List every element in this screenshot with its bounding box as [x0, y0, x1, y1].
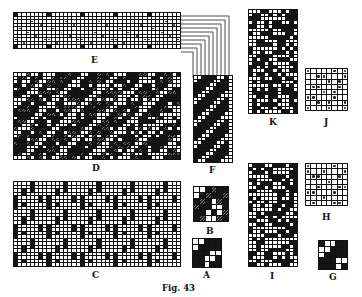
label-k: K [269, 117, 277, 127]
panel-k-grid [248, 9, 298, 114]
label-c: C [92, 270, 99, 280]
panel-d-grid [13, 72, 181, 160]
figure-caption: Fig. 43 [162, 283, 195, 293]
panel-j-grid [305, 68, 348, 111]
panel-f-grid [193, 75, 233, 163]
panel-i-grid [248, 163, 298, 267]
label-d: D [92, 163, 100, 173]
panel-h-grid [305, 163, 348, 206]
panel-a-grid [192, 238, 222, 268]
label-b: B [206, 226, 214, 236]
label-e: E [91, 55, 98, 65]
panel-e-grid [13, 12, 181, 49]
panel-c-grid [13, 181, 181, 267]
label-i: I [270, 271, 274, 281]
panel-g-grid [318, 240, 348, 270]
label-f: F [209, 165, 215, 175]
label-h: H [322, 212, 331, 222]
label-j: J [324, 117, 328, 127]
label-g: G [329, 272, 337, 282]
connector-lines [181, 14, 231, 79]
label-a: A [203, 270, 210, 280]
panel-b-grid [193, 186, 229, 222]
